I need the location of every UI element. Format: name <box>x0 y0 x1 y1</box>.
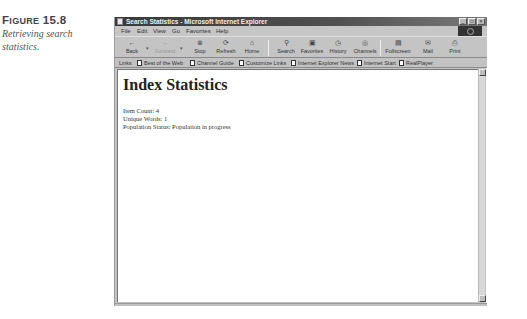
browser-window: Search Statistics - Microsoft Internet E… <box>114 17 486 306</box>
population-status-text: Population Status: Population in progres… <box>123 123 231 131</box>
fullscreen-button[interactable]: ▤ Fullscreen <box>385 38 411 58</box>
menu-bar: File Edit View Go Favorites Help <box>115 26 487 36</box>
figure-caption: FIGURE 15.8 Retrieving search statistics… <box>2 14 107 53</box>
status-bar-edge <box>115 303 487 306</box>
channels-icon: ◎ <box>361 39 370 47</box>
forward-button[interactable]: → Forward <box>152 38 178 58</box>
link-channel-guide[interactable]: Channel Guide <box>190 59 234 67</box>
links-label: Links <box>119 59 132 67</box>
link-label: Channel Guide <box>197 60 234 66</box>
figure-number: 15.8 <box>43 14 67 26</box>
menu-edit[interactable]: Edit <box>137 27 147 35</box>
home-button[interactable]: ⌂ Home <box>239 38 265 58</box>
links-bar: Links Best of the Web Channel Guide Cust… <box>115 58 487 68</box>
standard-toolbar: ← Back ▾ → Forward ▾ ⊗ Stop ⟳ Refresh ⌂ … <box>115 36 487 58</box>
search-button[interactable]: ⚲ Search <box>273 38 299 58</box>
ie-logo-icon <box>467 28 474 35</box>
print-label: Print <box>442 47 468 55</box>
link-label: Customize Links <box>246 60 286 66</box>
print-button[interactable]: ⎙ Print <box>442 38 468 58</box>
menu-favorites[interactable]: Favorites <box>186 27 211 35</box>
back-button[interactable]: ← Back <box>119 38 145 58</box>
window-title: Search Statistics - Microsoft Internet E… <box>126 17 267 26</box>
refresh-button[interactable]: ⟳ Refresh <box>213 38 239 58</box>
figure-label: FIGURE 15.8 <box>2 14 107 26</box>
stop-icon: ⊗ <box>196 39 205 47</box>
figure-description: Retrieving search statistics. <box>2 27 107 53</box>
refresh-icon: ⟳ <box>222 39 231 47</box>
unique-words-text: Unique Words: 1 <box>123 115 167 123</box>
link-realplayer[interactable]: RealPlayer <box>399 59 433 67</box>
page-title: Index Statistics <box>123 76 227 94</box>
toolbar-separator <box>380 40 381 56</box>
channels-label: Channels <box>352 47 378 55</box>
toolbar-separator <box>268 40 269 56</box>
print-icon: ⎙ <box>451 39 460 47</box>
figure-word-rest: IGURE <box>9 16 39 26</box>
vertical-scrollbar[interactable] <box>478 69 485 302</box>
close-button[interactable]: × <box>477 18 485 25</box>
item-count-text: Item Count: 4 <box>123 107 159 115</box>
home-label: Home <box>239 47 265 55</box>
menu-go[interactable]: Go <box>172 27 180 35</box>
mail-button[interactable]: ✉ Mail <box>415 38 441 58</box>
link-page-icon <box>357 60 362 66</box>
search-label: Search <box>273 47 299 55</box>
forward-label: Forward <box>152 47 178 55</box>
mail-icon: ✉ <box>424 39 433 47</box>
minimize-button[interactable]: _ <box>459 18 467 25</box>
menu-view[interactable]: View <box>153 27 166 35</box>
stop-button[interactable]: ⊗ Stop <box>187 38 213 58</box>
link-label: Best of the Web <box>144 60 183 66</box>
history-button[interactable]: ◷ History <box>325 38 351 58</box>
page-content: Index Statistics Item Count: 4 Unique Wo… <box>117 69 478 302</box>
menu-help[interactable]: Help <box>216 27 228 35</box>
forward-arrow-icon: → <box>161 39 170 47</box>
link-page-icon <box>137 60 142 66</box>
link-page-icon <box>399 60 404 66</box>
link-customize-links[interactable]: Customize Links <box>239 59 286 67</box>
link-label: Internet Explorer News <box>298 60 354 66</box>
home-icon: ⌂ <box>248 39 257 47</box>
link-label: Internet Start <box>364 60 396 66</box>
favorites-button[interactable]: ▣ Favorites <box>299 38 325 58</box>
refresh-label: Refresh <box>213 47 239 55</box>
link-internet-start[interactable]: Internet Start <box>357 59 396 67</box>
link-page-icon <box>291 60 296 66</box>
mail-label: Mail <box>415 47 441 55</box>
menu-file[interactable]: File <box>121 27 131 35</box>
link-page-icon <box>190 60 195 66</box>
history-label: History <box>325 47 351 55</box>
link-label: RealPlayer <box>406 60 433 66</box>
fullscreen-label: Fullscreen <box>385 47 411 55</box>
back-label: Back <box>119 47 145 55</box>
back-dropdown-icon[interactable]: ▾ <box>146 45 149 51</box>
forward-dropdown-icon[interactable]: ▾ <box>180 45 183 51</box>
title-bar[interactable]: Search Statistics - Microsoft Internet E… <box>115 17 487 26</box>
link-page-icon <box>239 60 244 66</box>
scroll-down-arrow-icon[interactable] <box>479 295 486 302</box>
maximize-button[interactable]: □ <box>468 18 476 25</box>
favorites-icon: ▣ <box>308 39 317 47</box>
ie-page-icon <box>117 18 123 25</box>
search-icon: ⚲ <box>282 39 291 47</box>
link-best-of-the-web[interactable]: Best of the Web <box>137 59 183 67</box>
fullscreen-icon: ▤ <box>394 39 403 47</box>
stop-label: Stop <box>187 47 213 55</box>
back-arrow-icon: ← <box>128 39 137 47</box>
scroll-up-arrow-icon[interactable] <box>479 69 486 76</box>
channels-button[interactable]: ◎ Channels <box>352 38 378 58</box>
favorites-label: Favorites <box>299 47 325 55</box>
history-icon: ◷ <box>334 39 343 47</box>
link-internet-explorer-news[interactable]: Internet Explorer News <box>291 59 354 67</box>
